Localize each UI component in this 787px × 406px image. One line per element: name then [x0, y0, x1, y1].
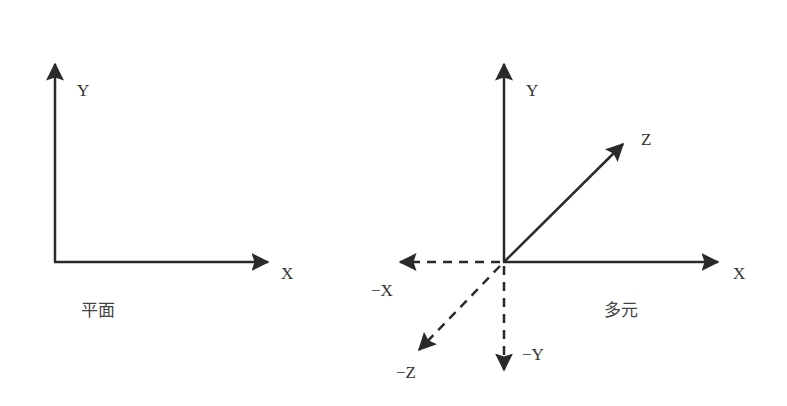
multi-dimensional-diagram: Y X Z −X −Y −Z 多元: [371, 64, 745, 382]
z-axis-label: Z: [641, 130, 651, 149]
neg-y-axis-label: −Y: [522, 345, 544, 364]
neg-z-axis: [419, 266, 500, 350]
neg-z-axis-label: −Z: [396, 363, 416, 382]
y-axis-label: Y: [526, 81, 538, 100]
x-axis-label: X: [733, 264, 745, 283]
coordinate-diagrams: Y X 平面 Y X Z −X −Y −Z 多元: [0, 0, 787, 406]
z-axis: [504, 144, 623, 262]
y-axis-label: Y: [77, 81, 89, 100]
multi-caption: 多元: [604, 300, 638, 320]
x-axis-label: X: [281, 264, 293, 283]
plane-caption: 平面: [81, 300, 115, 320]
neg-x-axis-label: −X: [371, 281, 393, 300]
plane-diagram: Y X 平面: [54, 64, 293, 320]
